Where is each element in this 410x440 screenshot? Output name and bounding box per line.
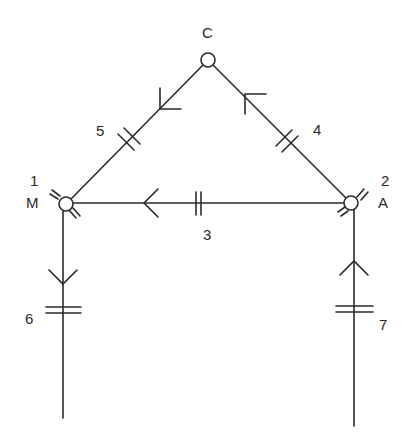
edge-5: 5 (71, 65, 203, 199)
edge-4: 4 (213, 65, 346, 198)
arrow-icon (245, 94, 266, 114)
tick-mark (338, 207, 345, 212)
node-label-c: C (202, 24, 213, 41)
edge-7: 7 (336, 210, 387, 426)
diagram-canvas: 5 4 3 6 7 (0, 0, 410, 440)
node-number-2: 2 (381, 172, 389, 189)
node-label-a: A (378, 194, 388, 211)
tick-mark (361, 192, 368, 200)
edge-label-7: 7 (379, 316, 387, 333)
node-number-1: 1 (30, 172, 38, 189)
edge-3: 3 (73, 189, 344, 243)
edge-label-4: 4 (313, 121, 321, 138)
tick-mark (357, 189, 364, 197)
node-a: 2 A (338, 172, 389, 216)
node-m: 1 M (26, 172, 80, 218)
edge-label-3: 3 (203, 226, 211, 243)
tick-mark (50, 194, 58, 199)
edge-label-6: 6 (25, 310, 33, 327)
node-label-m: M (26, 194, 39, 211)
edge-label-5: 5 (96, 122, 104, 139)
edge-6: 6 (25, 211, 81, 418)
node-c: C (201, 24, 215, 67)
tick-mark (341, 211, 348, 216)
